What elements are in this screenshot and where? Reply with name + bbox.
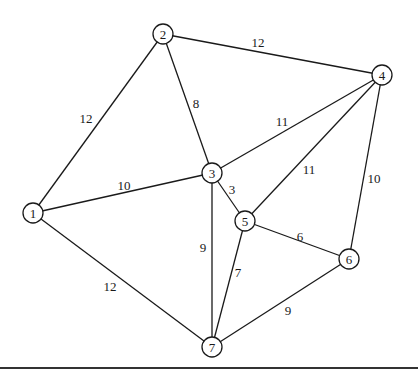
nodes-group: 1234567 (23, 24, 392, 357)
weighted-graph-diagram: 12128101111103967129 1234567 (0, 0, 418, 377)
node-label: 4 (379, 68, 386, 83)
node-1: 1 (23, 203, 43, 223)
edge-weight-2-3: 8 (193, 96, 200, 111)
edge-weight-1-3: 10 (118, 178, 131, 193)
node-label: 6 (346, 252, 353, 267)
edge-weight-1-2: 12 (80, 111, 93, 126)
edge-weight-4-6: 10 (368, 171, 381, 186)
edge-weight-2-4: 12 (252, 35, 265, 50)
node-label: 2 (160, 27, 167, 42)
node-5: 5 (235, 211, 255, 231)
edge-4-5 (245, 75, 382, 221)
edge-6-7 (212, 259, 349, 347)
node-label: 7 (209, 340, 216, 355)
edge-weight-3-5: 3 (229, 182, 236, 197)
edge-4-6 (349, 75, 382, 259)
node-label: 5 (242, 214, 249, 229)
edge-weight-5-7: 7 (235, 265, 242, 280)
node-4: 4 (372, 65, 392, 85)
edge-3-4 (212, 75, 382, 173)
edge-2-4 (163, 34, 382, 75)
edge-weight-1-7: 12 (104, 279, 117, 294)
node-6: 6 (339, 249, 359, 269)
edges-group (33, 34, 382, 347)
edge-weight-3-7: 9 (200, 240, 207, 255)
edge-5-7 (212, 221, 245, 347)
edge-weight-6-7: 9 (285, 303, 292, 318)
node-3: 3 (202, 163, 222, 183)
edge-weight-3-4: 11 (276, 114, 289, 129)
edge-weight-5-6: 6 (297, 229, 304, 244)
edge-weights-group: 12128101111103967129 (80, 35, 381, 318)
node-label: 1 (30, 206, 37, 221)
edge-1-7 (33, 213, 212, 347)
edge-2-3 (163, 34, 212, 173)
edge-1-2 (33, 34, 163, 213)
node-2: 2 (153, 24, 173, 44)
edge-weight-4-5: 11 (303, 162, 316, 177)
node-7: 7 (202, 337, 222, 357)
node-label: 3 (209, 166, 216, 181)
